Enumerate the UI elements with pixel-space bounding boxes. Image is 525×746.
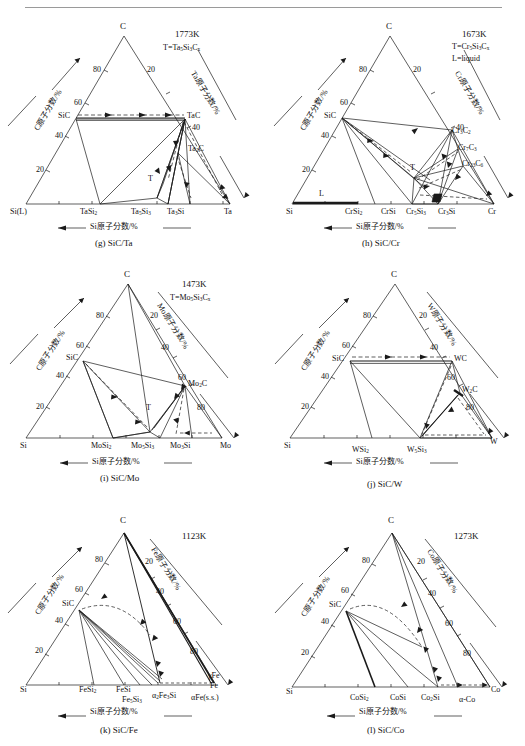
bottom-axis-arrow-h (262, 8, 524, 256)
phase-diagram-panel-l: C 1273K C原子分数/% Co原子分数/% 20 40 60 80 20 … (262, 504, 524, 746)
phase-diagram-panel-k: C 1123K C原子分数/% Fe原子分数/% 20 40 60 80 20 … (0, 504, 262, 746)
panel-caption-k: (k) SiC/Fe (100, 726, 138, 735)
bottom-axis-title-k: Si原子分数/% (90, 708, 138, 716)
phase-diagram-panel-h: C 1673K T=Cr5Si3Cx L=liquid C原子分数/% Cr原子… (262, 8, 524, 256)
bottom-axis-title-i: Si原子分数/% (92, 458, 140, 466)
bottom-axis-title-j: Si原子分数/% (356, 458, 404, 466)
panel-caption-h: (h) SiC/Cr (362, 239, 400, 248)
phase-diagram-panel-g: C 1773K T=Ta5Si3Cx C原子分数/% Ta原子分数/% 20 4… (0, 8, 262, 256)
bottom-axis-title-g: Si原子分数/% (90, 223, 138, 231)
panel-caption-i: (i) SiC/Mo (100, 474, 139, 483)
bottom-axis-arrow-i (0, 256, 262, 504)
bottom-axis-title-h: Si原子分数/% (356, 223, 404, 231)
panel-caption-j: (j) SiC/W (367, 480, 402, 489)
panel-caption-g: (g) SiC/Ta (95, 239, 133, 248)
bottom-axis-arrow-j (262, 256, 524, 504)
bottom-axis-title-l: Si原子分数/% (359, 708, 407, 716)
bottom-axis-arrow-g (0, 8, 262, 256)
panel-caption-l: (l) SiC/Co (367, 726, 404, 735)
phase-diagram-panel-j: C C原子分数/% W原子分数/% 20 40 60 80 20 40 60 8… (262, 256, 524, 504)
phase-diagram-panel-i: C 1473K T=Mo5Si3Cx C原子分数/% Mo原子分数/% 20 4… (0, 256, 262, 504)
